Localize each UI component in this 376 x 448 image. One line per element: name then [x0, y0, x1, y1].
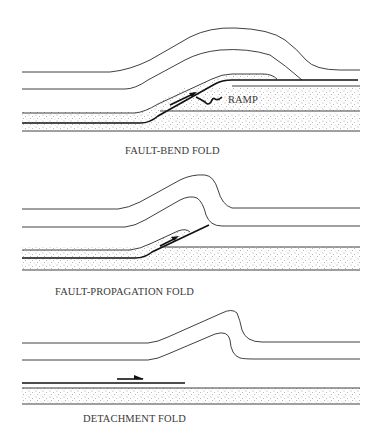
ramp-label: RAMP: [228, 94, 258, 105]
fold-diagram: [0, 0, 376, 448]
upper-horizon-line: [22, 175, 360, 209]
upper-horizon-line: [22, 28, 360, 72]
detachment-fold-caption: DETACHMENT FOLD: [83, 413, 186, 424]
fault-bend-fold-panel: [22, 28, 360, 131]
middle-horizon-line: [22, 50, 302, 89]
detachment-fold-panel: [22, 311, 360, 405]
upper-horizon-line: [22, 311, 360, 344]
basal-sandstone-layer: [22, 388, 360, 403]
fault-propagation-fold-caption: FAULT-PROPAGATION FOLD: [55, 286, 194, 297]
fault-propagation-fold-panel: [22, 175, 360, 270]
middle-horizon-line: [22, 197, 360, 227]
middle-horizon-line: [22, 333, 360, 360]
fault-bend-fold-caption: FAULT-BEND FOLD: [125, 145, 220, 156]
